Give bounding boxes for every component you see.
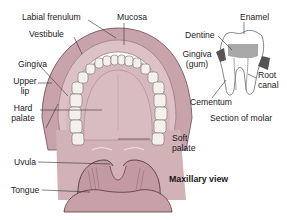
label-gingiva-line2: (gum)	[180, 60, 214, 70]
label-root-canal-line2: canal	[258, 81, 279, 91]
label-gingiva-gum: Gingiva (gum)	[180, 50, 214, 69]
maxillary-view-diagram: Labial frenulum Mucosa Vestibule Gingiva…	[0, 0, 287, 220]
label-upper-lip-line2: lip	[12, 87, 38, 97]
label-mucosa: Mucosa	[117, 13, 147, 23]
label-gingiva: Gingiva	[18, 60, 47, 70]
label-hard-palate: Hard palate	[8, 104, 38, 123]
view-label: Maxillary view	[169, 175, 228, 185]
label-uvula: Uvula	[14, 158, 36, 168]
label-upper-lip: Upper lip	[12, 77, 38, 96]
molar-caption: Section of molar	[210, 114, 272, 124]
label-soft-palate: Soft palate	[172, 134, 195, 153]
label-root-canal: Root canal	[258, 71, 279, 90]
label-vestibule: Vestibule	[29, 30, 64, 40]
label-labial-frenulum: Labial frenulum	[22, 13, 81, 23]
label-hard-palate-line2: palate	[8, 114, 38, 124]
label-cementum: Cementum	[190, 98, 232, 108]
label-enamel: Enamel	[240, 13, 269, 23]
label-dentine: Dentine	[185, 31, 215, 41]
label-soft-palate-line2: palate	[172, 144, 195, 154]
label-tongue: Tongue	[11, 186, 39, 196]
